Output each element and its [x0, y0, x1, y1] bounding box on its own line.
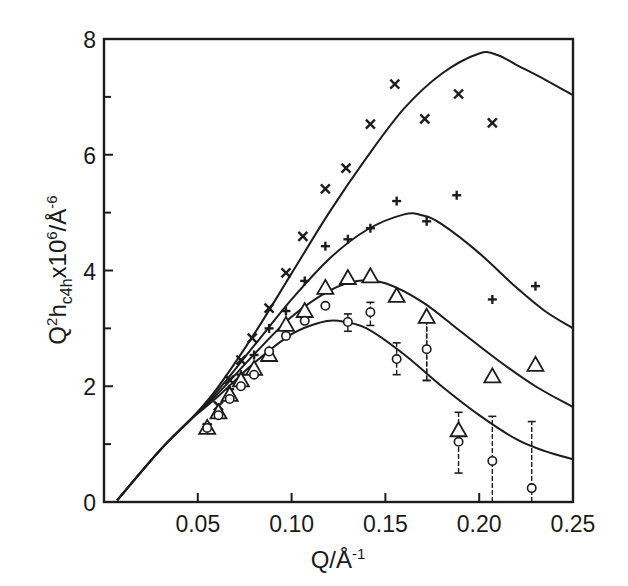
x-tick-label: 0.10	[269, 511, 314, 537]
marker-x-icon	[366, 120, 375, 129]
x-tick-label: 0.05	[175, 511, 220, 537]
marker-circle-icon	[528, 484, 536, 492]
fit-curve-circle	[117, 320, 573, 500]
marker-plus-icon	[392, 197, 401, 206]
marker-circle-icon	[321, 302, 329, 310]
marker-triangle-icon	[362, 268, 378, 282]
marker-plus-icon	[321, 242, 330, 251]
marker-x-icon	[342, 164, 351, 173]
marker-circle-icon	[392, 355, 400, 363]
marker-x-icon	[321, 184, 330, 193]
marker-circle-icon	[282, 332, 290, 340]
marker-triangle-icon	[419, 309, 435, 323]
marker-circle-icon	[250, 370, 258, 378]
marker-triangle-icon	[527, 357, 543, 371]
y-tick-label: 4	[83, 259, 96, 285]
marker-circle-icon	[422, 345, 430, 353]
x-tick-label: 0.15	[363, 511, 408, 537]
marker-circle-icon	[237, 382, 245, 390]
marker-x-icon	[281, 268, 290, 277]
x-tick-label: 0.20	[457, 511, 502, 537]
marker-circle-icon	[488, 457, 496, 465]
marker-triangle-icon	[278, 317, 294, 331]
plot-border	[104, 39, 573, 502]
chart: 02468 0.050.100.150.200.25 Q/Å-1 Q2hc4hx…	[0, 0, 628, 586]
marker-plus-icon	[343, 235, 352, 244]
fit-curve-plus	[117, 213, 573, 500]
marker-circle-icon	[214, 411, 222, 419]
marker-x-icon	[298, 232, 307, 241]
marker-circle-icon	[225, 395, 233, 403]
marker-plus-icon	[300, 276, 309, 285]
marker-circle-icon	[366, 308, 374, 316]
marker-x-icon	[390, 80, 399, 89]
marker-x-icon	[454, 89, 463, 98]
marker-circle-icon	[265, 347, 273, 355]
y-tick-label: 0	[83, 490, 96, 516]
marker-triangle-icon	[451, 422, 467, 436]
marker-plus-icon	[452, 191, 461, 200]
y-tick-label: 8	[83, 27, 96, 53]
marker-x-icon	[248, 334, 257, 343]
marker-circle-icon	[344, 318, 352, 326]
marker-plus-icon	[531, 282, 540, 291]
y-tick-label: 6	[83, 143, 96, 169]
marker-x-icon	[488, 118, 497, 127]
y-axis-label: Q2hc4hx106/Å-6	[43, 195, 75, 344]
marker-circle-icon	[301, 317, 309, 325]
marker-triangle-icon	[340, 270, 356, 284]
marker-circle-icon	[203, 424, 211, 432]
marker-triangle-icon	[484, 368, 500, 382]
y-tick-label: 2	[83, 374, 96, 400]
x-tick-label: 0.25	[551, 511, 596, 537]
marker-plus-icon	[281, 307, 290, 316]
marker-triangle-icon	[317, 280, 333, 294]
marker-circle-icon	[454, 438, 462, 446]
marker-plus-icon	[488, 295, 497, 304]
plot-frame	[104, 39, 573, 502]
x-axis-label: Q/Å-1	[311, 545, 366, 573]
y-axis-ticks: 02468	[83, 27, 113, 516]
marker-x-icon	[420, 114, 429, 123]
